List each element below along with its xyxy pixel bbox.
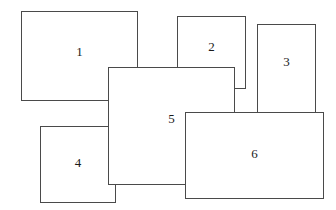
rectangle-6: 6 [185, 112, 324, 199]
rectangle-4: 4 [40, 126, 116, 203]
rectangle-label-3: 3 [258, 55, 315, 68]
rectangle-label-4: 4 [41, 156, 115, 169]
rectangle-label-1: 1 [22, 45, 137, 58]
rectangle-label-6: 6 [186, 147, 323, 160]
overlapping-rectangles-figure: 123456 [0, 0, 336, 210]
rectangle-3: 3 [257, 24, 316, 115]
rectangle-label-2: 2 [178, 40, 245, 53]
